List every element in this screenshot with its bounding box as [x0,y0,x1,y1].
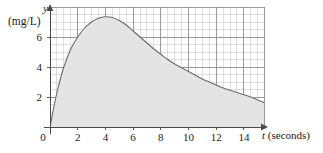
y-axis-units-label: (mg/L) [8,16,41,28]
x-tick-label: 10 [179,132,199,143]
x-tick-label: 6 [123,132,143,143]
x-tick-label: 0 [33,132,53,143]
concentration-time-chart: y (mg/L) t (seconds) 02468101214246 [0,0,323,153]
x-axis-units-label: (seconds) [268,129,310,141]
area-under-curve [50,17,265,127]
x-tick-label: 2 [68,132,88,143]
x-tick-label: 12 [206,132,226,143]
y-axis-variable-label: y [43,3,48,14]
y-tick-label: 2 [24,92,42,103]
y-tick-label: 4 [24,62,42,73]
y-tick-label: 6 [24,32,42,43]
x-axis-variable-label: t [262,129,265,141]
x-tick-label: 4 [95,132,115,143]
x-axis-label: t (seconds) [262,130,310,141]
x-tick-label: 14 [234,132,254,143]
x-tick-label: 8 [151,132,171,143]
